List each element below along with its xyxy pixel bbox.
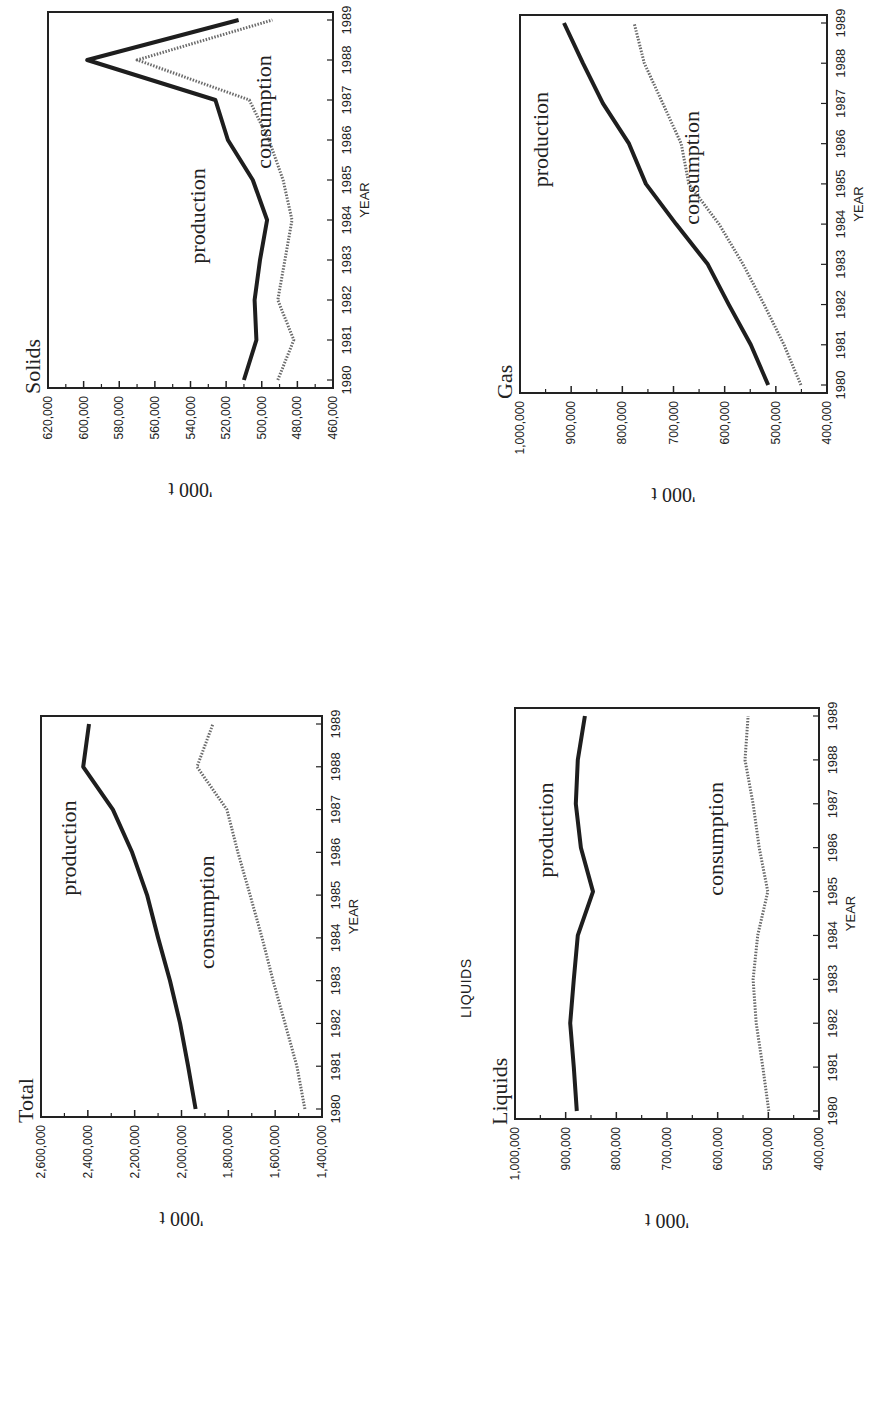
production-line [570, 716, 593, 1111]
x-tick-label: 1981 [833, 330, 848, 359]
x-tick-label: 1985 [833, 169, 848, 198]
x-tick-label: 1989 [339, 6, 354, 35]
x-tick-label: 1980 [825, 1097, 840, 1126]
x-tick-label: 1982 [328, 1009, 343, 1038]
y-tick-label: 1,800,000 [221, 1125, 235, 1179]
x-tick-label: 1988 [825, 745, 840, 774]
x-tick-label: 1987 [328, 795, 343, 824]
x-tick-label: 1983 [328, 966, 343, 995]
y-tick-label: 460,000 [326, 396, 340, 440]
y-tick-label: 1,000,000 [513, 401, 527, 455]
x-tick-label: 1986 [339, 126, 354, 155]
y-tick-label: 900,000 [559, 1127, 573, 1171]
y-axis-label: '000 t [644, 1210, 689, 1232]
y-tick-label: 480,000 [290, 396, 304, 440]
x-tick-label: 1986 [825, 833, 840, 862]
x-tick-label: 1988 [339, 46, 354, 75]
x-tick-label: 1989 [328, 710, 343, 739]
x-tick-label: 1989 [833, 9, 848, 38]
x-tick-label: 1986 [328, 838, 343, 867]
chart-svg: 1,400,0001,600,0001,800,0002,000,0002,20… [41, 716, 322, 1117]
x-tick-label: 1989 [825, 702, 840, 731]
x-tick-label: 1985 [339, 166, 354, 195]
y-tick-label: 580,000 [112, 396, 126, 440]
y-tick-label: 2,000,000 [175, 1125, 189, 1179]
plot-frame [41, 716, 322, 1117]
consumption-label: consumption [251, 55, 276, 169]
y-tick-label: 1,400,000 [315, 1125, 329, 1179]
chart-svg: 400,000500,000600,000700,000800,000900,0… [520, 15, 827, 393]
y-tick-label: 560,000 [148, 396, 162, 440]
x-tick-label: 1987 [833, 89, 848, 118]
y-tick-label: 2,400,000 [81, 1125, 95, 1179]
x-tick-label: 1980 [833, 371, 848, 400]
y-tick-label: 600,000 [77, 396, 91, 440]
x-tick-label: 1987 [339, 86, 354, 115]
x-tick-label: 1982 [833, 290, 848, 319]
y-tick-label: 800,000 [609, 1127, 623, 1171]
x-tick-label: 1981 [328, 1052, 343, 1081]
x-tick-label: 1984 [825, 921, 840, 950]
y-tick-label: 400,000 [812, 1127, 826, 1171]
x-tick-label: 1987 [825, 789, 840, 818]
consumption-line [745, 716, 769, 1111]
x-tick-label: 1981 [339, 326, 354, 355]
x-tick-label: 1983 [825, 965, 840, 994]
y-tick-label: 800,000 [615, 401, 629, 445]
x-tick-label: 1986 [833, 129, 848, 158]
x-tick-label: 1984 [339, 206, 354, 235]
y-tick-label: 400,000 [820, 401, 834, 445]
x-tick-label: 1985 [328, 881, 343, 910]
y-tick-label: 500,000 [761, 1127, 775, 1171]
x-axis-label: YEAR [843, 896, 858, 931]
production-line [564, 23, 768, 385]
production-label: production [528, 92, 553, 187]
x-tick-label: 1981 [825, 1053, 840, 1082]
y-axis-label: '000 t [159, 1208, 204, 1230]
production-line [83, 724, 195, 1109]
y-tick-label: 900,000 [564, 401, 578, 445]
y-tick-label: 2,200,000 [128, 1125, 142, 1179]
y-tick-label: 700,000 [667, 401, 681, 445]
chart-title: Total [13, 1078, 38, 1123]
chart-title: Gas [492, 365, 517, 399]
y-tick-label: 520,000 [219, 396, 233, 440]
x-tick-label: 1982 [825, 1009, 840, 1038]
production-label: production [185, 168, 210, 263]
stray-liquids-label: LIQUIDS [458, 958, 474, 1018]
y-tick-label: 540,000 [184, 396, 198, 440]
consumption-label: consumption [194, 855, 219, 969]
y-tick-label: 600,000 [711, 1127, 725, 1171]
y-tick-label: 600,000 [718, 401, 732, 445]
y-tick-label: 2,600,000 [34, 1125, 48, 1179]
production-label: production [56, 800, 81, 895]
x-tick-label: 1988 [328, 752, 343, 781]
y-axis-label: '000 t [168, 479, 213, 501]
y-tick-label: 1,000,000 [508, 1127, 522, 1181]
chart-title: Liquids [487, 1058, 512, 1125]
rotated-page: 1,400,0001,600,0001,800,0002,000,0002,20… [0, 0, 882, 1403]
chart-svg: 400,000500,000600,000700,000800,000900,0… [515, 708, 819, 1119]
chart-title: Solids [20, 339, 45, 394]
y-tick-label: 500,000 [255, 396, 269, 440]
x-tick-label: 1988 [833, 49, 848, 78]
x-tick-label: 1983 [339, 246, 354, 275]
y-tick-label: 500,000 [769, 401, 783, 445]
x-axis-label: YEAR [346, 899, 361, 934]
consumption-label: consumption [679, 111, 704, 225]
y-tick-label: 1,600,000 [268, 1125, 282, 1179]
x-axis-label: YEAR [851, 186, 866, 221]
x-tick-label: 1984 [833, 210, 848, 239]
chart-svg: 460,000480,000500,000520,000540,000560,0… [48, 12, 333, 388]
consumption-label: consumption [703, 782, 728, 896]
plot-frame [515, 708, 819, 1119]
x-tick-label: 1983 [833, 250, 848, 279]
plot-frame [520, 15, 827, 393]
x-tick-label: 1980 [328, 1095, 343, 1124]
y-axis-label: '000 t [651, 484, 696, 506]
y-tick-label: 620,000 [41, 396, 55, 440]
x-tick-label: 1984 [328, 923, 343, 952]
x-tick-label: 1985 [825, 877, 840, 906]
production-label: production [533, 782, 558, 877]
y-tick-label: 700,000 [660, 1127, 674, 1171]
